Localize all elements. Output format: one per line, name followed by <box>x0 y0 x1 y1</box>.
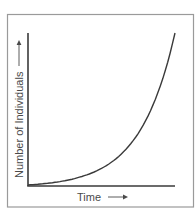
chart-figure: Number of Individuals Time <box>0 0 196 220</box>
y-axis-label-group: Number of Individuals <box>13 40 25 178</box>
growth-curve <box>28 33 175 185</box>
x-axis-label-group: Time <box>77 191 128 203</box>
chart-svg: Number of Individuals Time <box>0 0 196 220</box>
y-axis-label-arrowhead-icon <box>17 40 22 45</box>
x-axis-label: Time <box>77 191 101 203</box>
chart-frame <box>8 15 194 208</box>
y-axis-label: Number of Individuals <box>13 71 25 178</box>
x-axis-label-arrowhead-icon <box>123 195 128 200</box>
